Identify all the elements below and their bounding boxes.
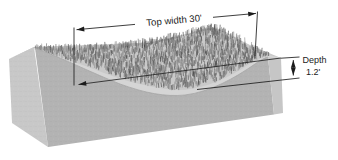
depth-value: 1.2' (306, 67, 321, 77)
depth-tick-top (281, 57, 300, 58)
top-width-dim-line-left (77, 24, 136, 29)
top-width-label: Top width 30' (146, 12, 203, 28)
swale-diagram: Top width 30' Depth 1.2' (0, 0, 338, 160)
depth-label: Depth (303, 55, 327, 65)
swale-3d-illustration: Top width 30' Depth 1.2' (0, 0, 338, 160)
top-width-dim-line-right (213, 13, 256, 17)
